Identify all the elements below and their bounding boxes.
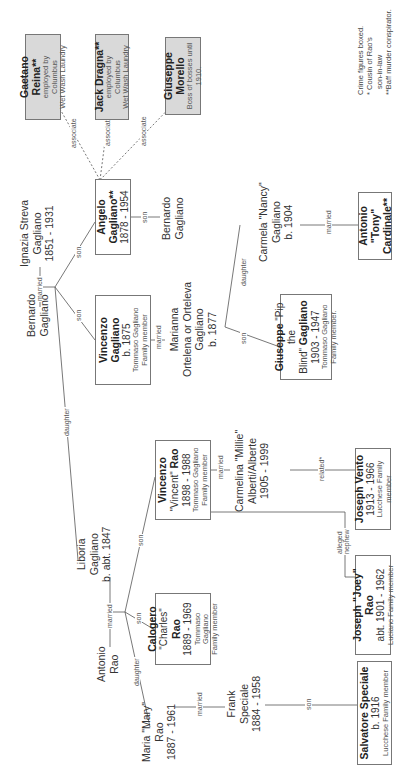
married-label: married (325, 209, 332, 235)
son-label: son (137, 534, 144, 547)
alleged-nephew-label: allegednephew (336, 528, 350, 555)
son-label: son (141, 211, 148, 224)
box-giuseppe-morello: Giuseppe Morello Boss of bosses until 19… (165, 37, 201, 115)
box-salvatore-speciale: Salvatore Speciale b. 1916 Lucchese Fami… (357, 661, 392, 765)
married-label: married (196, 691, 203, 717)
box-tony-cardinale: Antonio "Tony" Cardinale** (358, 192, 392, 260)
box-calogero-rao: Calogero "Charles" Rao 1889 - 1969 Tomma… (155, 593, 211, 665)
married-label: married (106, 603, 113, 629)
related-label: related* (318, 456, 325, 482)
married-label: married (217, 454, 224, 480)
associate-label: associate (104, 115, 111, 147)
person-carmela-nancy-gagliano: Carmela "Nancy"Gaglianob. 1904 (257, 182, 295, 262)
person-liboria-gagliano: LiboriaGaglianob. abt. 1847 (75, 527, 113, 582)
married-label: married (155, 324, 162, 350)
legend: Crime figures boxed. * Cousin of Rao's s… (356, 9, 394, 95)
box-jack-dragna: Jack Dragna** employed by Columbus Wet W… (95, 34, 129, 120)
family-tree-diagram: married daughter son son married son mar… (0, 0, 405, 777)
son-label: son (75, 309, 82, 322)
box-angelo-gagliano: Angelo Gagliano** 1878 - 1954 (95, 179, 131, 255)
son-label: son (75, 246, 82, 259)
son-label: son (135, 612, 142, 625)
daughter-label: daughter (133, 657, 140, 687)
son-label: son (240, 332, 247, 345)
person-bernardo-gagliano-sr: BernardoGagliano (25, 294, 50, 337)
person-marianna-gagliano: MariannaOrtelena or OrtelevaGaglianob. 1… (168, 282, 218, 377)
person-carmelina-alberti: Carmelina "Millie"Alberti/Alberte1905 - … (233, 430, 271, 512)
son-label: son (305, 698, 312, 711)
associate-label: associate (140, 115, 147, 147)
person-antonio-rao: AntonioRao (95, 646, 120, 682)
person-ignazia-gagliano: Ignazia StrevaGagliano1851 - 1931 (18, 200, 56, 267)
box-joey-rao: Joseph "Joey" Rao abt. 1901 - 1962 Lucia… (355, 555, 391, 655)
daughter-label: daughter (240, 257, 247, 287)
person-bernardo-gagliano-jr: BernardoGagliano (160, 197, 185, 240)
box-vincenzo-rao: Vincenzo "Vincent" Rao 1898 - 1988 Tomma… (155, 440, 211, 520)
box-giuseppe-pip-gagliano: Giuseppe "Pip the Blind" Gagliano 1903 -… (280, 294, 332, 380)
box-vincenzo-gagliano: Vincenzo Gagliano b. 1875 Tommaso Gaglia… (95, 295, 151, 385)
box-gaetano-reina: Gaetano Reina** employed by Columbus Wet… (25, 34, 61, 120)
associate-label: associate (70, 117, 77, 149)
person-maria-rao: Maria "Mary"Rao1887 - 1961 (140, 702, 178, 762)
person-frank-speciale: FrankSpeciale1884 - 1958 (225, 676, 263, 732)
box-joseph-vento: Joseph Vento 1913 - 1966 Lucchese Family… (355, 448, 391, 530)
daughter-label: daughter (63, 407, 70, 437)
